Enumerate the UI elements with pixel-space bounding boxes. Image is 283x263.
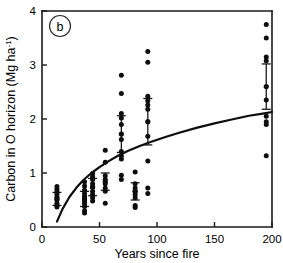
data-point [119,122,124,127]
data-point [133,181,138,186]
data-point [119,149,124,154]
data-point [90,199,95,204]
y-tick-label: 2 [30,113,36,125]
data-point [145,186,150,191]
figure-panel-b: 01234 050100150200 b Years since fire Ca… [0,0,283,263]
data-point [119,111,124,116]
data-point [145,191,150,196]
data-point [103,181,108,186]
data-point [119,115,124,120]
error-bar-mean-marker [145,119,150,124]
data-point [119,137,124,142]
data-point [145,102,150,107]
data-point [264,36,269,41]
data-point [264,122,269,127]
data-point [145,60,150,65]
data-point [145,98,150,103]
data-point [119,156,124,161]
data-point [145,134,150,139]
x-tick-label: 0 [39,233,45,245]
y-tick-label: 4 [30,5,37,17]
data-point [82,210,87,215]
x-tick-label: 50 [93,233,106,245]
y-tick-label: 0 [30,221,36,233]
data-point [119,177,124,182]
data-point [145,49,150,54]
y-axis-title: Carbon in O horizon (Mg ha-1) [4,36,18,202]
x-tick-label: 100 [147,233,166,245]
x-tick-label: 200 [262,233,281,245]
data-point [103,201,108,206]
carbon-vs-years-scatter-chart: 01234 050100150200 b Years since fire Ca… [0,0,283,263]
panel-label-text: b [57,20,64,34]
data-point [264,22,269,27]
data-point [264,153,269,158]
data-point [103,148,108,153]
data-point [103,189,108,194]
data-point [54,205,59,210]
data-point [119,91,124,96]
data-point [133,169,138,174]
data-point [133,205,138,210]
error-bar-mean-marker [264,84,269,89]
data-point [82,179,87,184]
data-point [82,183,87,188]
y-axis-ticks: 01234 [30,5,47,233]
error-bar-mean-marker [119,132,124,137]
data-point [82,204,87,209]
data-point [119,173,124,178]
x-tick-label: 150 [205,233,224,245]
x-axis-ticks: 050100150200 [39,222,282,245]
data-point [264,114,269,119]
data-point [264,58,269,63]
data-point [264,98,269,103]
data-point [90,185,95,190]
data-point [145,107,150,112]
data-point [145,94,150,99]
panel-label-badge: b [50,16,71,37]
data-point [90,177,95,182]
y-tick-label: 3 [30,59,36,71]
fitted-curve [57,112,272,222]
data-point [119,73,124,78]
error-bar [117,116,126,153]
data-point [103,160,108,165]
y-tick-label: 1 [30,167,36,179]
data-point [103,177,108,182]
x-axis-title: Years since fire [115,247,200,261]
data-point [145,159,150,164]
data-point [133,195,138,200]
